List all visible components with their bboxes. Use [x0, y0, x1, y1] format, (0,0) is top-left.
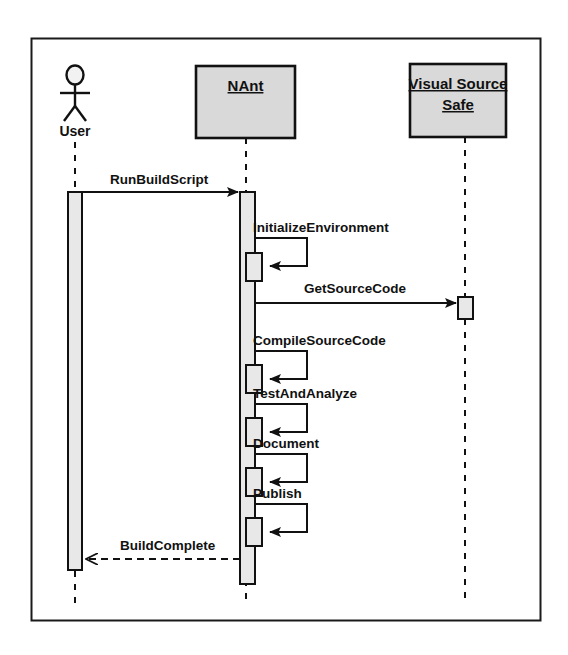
participant-label-vss-line1: Visual Source [409, 75, 508, 92]
message-label-document: Document [253, 436, 320, 451]
participant-label-vss-line2: Safe [442, 96, 474, 113]
message-label-getsourcecode: GetSourceCode [304, 281, 407, 296]
activation-nested-initializeenvironment [246, 253, 262, 281]
activation-bar-user [68, 192, 82, 570]
sequence-diagram: User NAnt Visual Source Safe RunBuildScr… [0, 0, 568, 655]
participant-label-nant: NAnt [228, 77, 264, 94]
message-label-buildcomplete: BuildComplete [120, 538, 216, 553]
activation-bar-vss [458, 297, 473, 319]
message-label-runbuildscript: RunBuildScript [110, 172, 209, 187]
activation-nested-publish [246, 518, 262, 546]
message-label-publish: Publish [253, 486, 302, 501]
message-label-testandanalyze: TestAndAnalyze [253, 386, 358, 401]
participant-label-user: User [59, 123, 91, 139]
message-label-compilesourcecode: CompileSourceCode [253, 333, 386, 348]
diagram-canvas: User NAnt Visual Source Safe RunBuildScr… [0, 0, 568, 655]
message-label-initializeenvironment: InitializeEnvironment [253, 220, 389, 235]
